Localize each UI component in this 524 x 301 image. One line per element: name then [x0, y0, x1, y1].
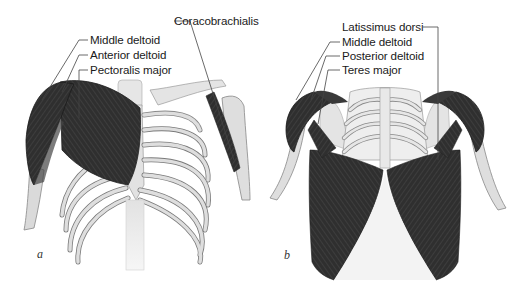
- panel-letter-b: b: [284, 248, 290, 263]
- panel-letter-a: a: [37, 247, 43, 262]
- anatomy-figure: Coracobrachialis Middle deltoid Anterior…: [0, 0, 524, 301]
- label-middle-deltoid-a: Middle deltoid: [90, 33, 160, 47]
- label-latissimus-dorsi: Latissimus dorsi: [342, 20, 424, 34]
- panel-b-illustration: [270, 88, 506, 281]
- panel-a-illustration: [24, 80, 250, 270]
- label-middle-deltoid-b: Middle deltoid: [342, 35, 412, 49]
- label-posterior-deltoid: Posterior deltoid: [342, 49, 424, 63]
- label-pectoralis-major: Pectoralis major: [90, 63, 172, 77]
- label-anterior-deltoid: Anterior deltoid: [90, 48, 166, 62]
- label-teres-major: Teres major: [342, 63, 401, 77]
- label-coracobrachialis: Coracobrachialis: [174, 14, 259, 28]
- anatomy-illustration: [0, 0, 524, 301]
